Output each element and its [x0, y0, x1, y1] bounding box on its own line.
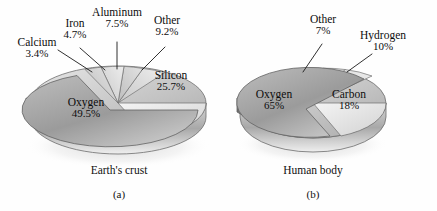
right-chart-panel-label: (b) — [288, 188, 338, 200]
label-hydrogen: Hydrogen 10% — [350, 29, 416, 53]
leader-other — [142, 47, 165, 70]
label-carbon: Carbon 18% — [322, 88, 376, 112]
label-other-right: Other 7% — [302, 13, 344, 37]
label-calcium-pct: 3.4% — [6, 48, 68, 60]
label-other-right-pct: 7% — [302, 25, 344, 37]
label-other-left-pct: 9.2% — [143, 26, 191, 38]
label-hydrogen-pct: 10% — [350, 41, 416, 53]
label-silicon-pct: 25.7% — [142, 81, 200, 93]
label-silicon: Silicon 25.7% — [142, 69, 200, 93]
label-oxygen-right-pct: 65% — [244, 100, 304, 112]
label-iron-pct: 4.7% — [53, 29, 97, 41]
leader-hydrogen — [347, 54, 372, 72]
label-oxygen-left-pct: 49.5% — [56, 108, 116, 120]
right-chart-caption: Human body — [258, 164, 368, 176]
left-pie-chart — [22, 42, 210, 168]
left-chart-caption: Earth's crust — [64, 164, 174, 176]
label-oxygen-left: Oxygen 49.5% — [56, 96, 116, 120]
label-oxygen-right: Oxygen 65% — [244, 88, 304, 112]
pie-charts-figure: Calcium 3.4% Iron 4.7% Aluminum 7.5% Oth… — [0, 0, 437, 211]
left-chart-panel-label: (a) — [94, 188, 144, 200]
label-carbon-pct: 18% — [322, 100, 376, 112]
label-other-left: Other 9.2% — [143, 14, 191, 38]
